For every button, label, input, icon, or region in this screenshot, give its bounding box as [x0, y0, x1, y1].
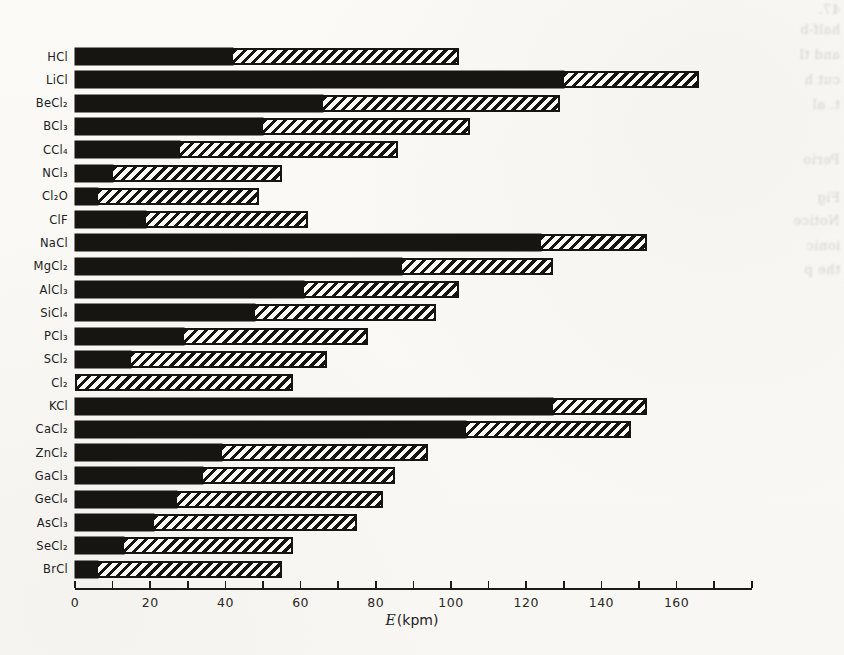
bar-hatched-segment	[177, 491, 384, 508]
category-label: LiCl	[0, 71, 68, 88]
bar-hatched-segment	[124, 537, 293, 554]
bar-hatched-segment	[98, 561, 282, 578]
scanned-book-figure: HClLiClBeCl₂BCl₃CCl₄NCl₃Cl₂OClFNaClMgCl₂…	[0, 0, 844, 655]
bar-solid-segment	[75, 537, 124, 554]
axis-title-unit: (kpm)	[397, 612, 439, 628]
x-axis-tick	[450, 581, 452, 588]
x-axis-title: E(kpm)	[386, 612, 439, 628]
bar-solid-segment	[75, 467, 203, 484]
category-label: KCl	[0, 398, 68, 415]
category-label: BrCl	[0, 561, 68, 578]
stacked-bar-chart: HClLiClBeCl₂BCl₃CCl₄NCl₃Cl₂OClFNaClMgCl₂…	[0, 0, 844, 655]
category-label: AsCl₃	[0, 514, 68, 531]
x-axis-tick	[337, 581, 339, 588]
bar-hatched-segment	[255, 304, 435, 321]
bar-solid-segment	[75, 281, 304, 298]
x-tick-label: 100	[438, 595, 463, 610]
x-axis-line	[75, 588, 752, 590]
bar-solid-segment	[75, 328, 184, 345]
x-tick-label: 80	[367, 595, 384, 610]
x-axis-tick	[563, 581, 565, 588]
category-label: Cl₂	[0, 374, 68, 391]
x-tick-label: 60	[292, 595, 309, 610]
bar-solid-segment	[75, 71, 564, 88]
category-label: CCl₄	[0, 141, 68, 158]
bar-hatched-segment	[402, 258, 552, 275]
bar-solid-segment	[75, 444, 222, 461]
x-tick-label: 160	[664, 595, 689, 610]
x-axis-tick	[375, 581, 377, 588]
bar-hatched-segment	[222, 444, 429, 461]
x-axis-tick	[488, 581, 490, 588]
x-axis-tick	[300, 581, 302, 588]
x-tick-label: 120	[514, 595, 539, 610]
x-tick-label: 140	[589, 595, 614, 610]
axis-title-symbol: E	[386, 612, 397, 628]
category-label: SiCl₄	[0, 304, 68, 321]
x-axis-tick	[187, 581, 189, 588]
x-axis-tick	[413, 581, 415, 588]
x-tick-label: 40	[217, 595, 234, 610]
x-axis-tick	[225, 581, 227, 588]
bar-solid-segment	[75, 118, 263, 135]
bar-solid-segment	[75, 514, 154, 531]
x-axis-tick	[713, 581, 715, 588]
category-label: GeCl₄	[0, 491, 68, 508]
category-label: SeCl₂	[0, 537, 68, 554]
x-axis-tick	[638, 581, 640, 588]
category-label: HCl	[0, 48, 68, 65]
category-label: BCl₃	[0, 118, 68, 135]
x-axis-tick	[149, 581, 151, 588]
x-axis-tick	[262, 581, 264, 588]
bar-solid-segment	[75, 95, 323, 112]
bar-solid-segment	[75, 561, 98, 578]
x-tick-label: 20	[142, 595, 159, 610]
bar-hatched-segment	[75, 374, 293, 391]
bar-solid-segment	[75, 48, 233, 65]
bar-solid-segment	[75, 141, 180, 158]
bar-hatched-segment	[263, 118, 470, 135]
bar-hatched-segment	[154, 514, 357, 531]
category-label: SCl₂	[0, 351, 68, 368]
bar-hatched-segment	[466, 421, 631, 438]
x-axis-tick	[74, 581, 76, 588]
bar-hatched-segment	[184, 328, 368, 345]
x-axis-tick	[676, 581, 678, 588]
bar-hatched-segment	[304, 281, 458, 298]
x-axis-tick	[112, 581, 114, 588]
bar-hatched-segment	[113, 165, 282, 182]
bar-solid-segment	[75, 398, 553, 415]
category-label: AlCl₃	[0, 281, 68, 298]
bar-hatched-segment	[146, 211, 308, 228]
bar-solid-segment	[75, 304, 255, 321]
category-label: CaCl₂	[0, 421, 68, 438]
category-label: MgCl₂	[0, 258, 68, 275]
category-label: Cl₂O	[0, 188, 68, 205]
bar-solid-segment	[75, 491, 177, 508]
bar-solid-segment	[75, 421, 466, 438]
bar-hatched-segment	[323, 95, 560, 112]
bar-solid-segment	[75, 234, 541, 251]
category-label: GaCl₃	[0, 467, 68, 484]
category-label: BeCl₂	[0, 95, 68, 112]
x-tick-label: 0	[71, 595, 79, 610]
bar-hatched-segment	[203, 467, 395, 484]
x-axis-tick	[601, 581, 603, 588]
bar-hatched-segment	[180, 141, 398, 158]
category-label: NCl₃	[0, 165, 68, 182]
bar-hatched-segment	[553, 398, 647, 415]
bar-hatched-segment	[541, 234, 646, 251]
x-axis-tick	[525, 581, 527, 588]
bar-hatched-segment	[131, 351, 327, 368]
bar-solid-segment	[75, 258, 402, 275]
category-label: ZnCl₂	[0, 444, 68, 461]
x-axis-tick	[751, 581, 753, 588]
bar-hatched-segment	[564, 71, 699, 88]
bar-solid-segment	[75, 351, 131, 368]
category-label: PCl₃	[0, 328, 68, 345]
category-label: ClF	[0, 211, 68, 228]
category-label: NaCl	[0, 234, 68, 251]
bar-hatched-segment	[98, 188, 260, 205]
bar-hatched-segment	[233, 48, 459, 65]
bar-solid-segment	[75, 188, 98, 205]
